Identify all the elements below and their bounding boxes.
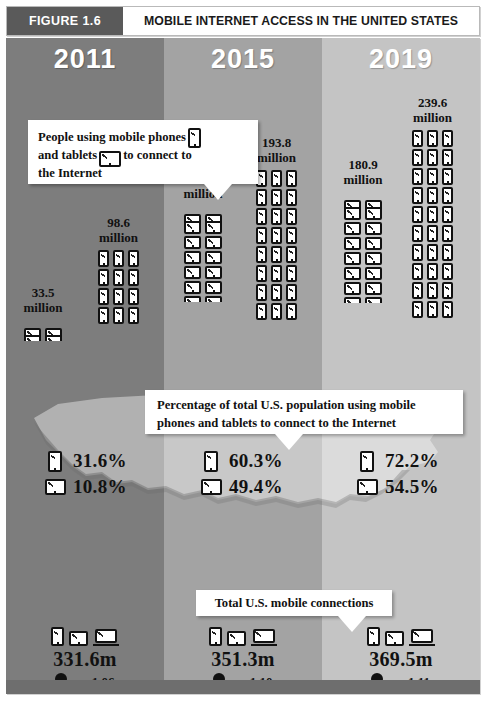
device-trio-2019 xyxy=(322,626,480,646)
phone-icon xyxy=(113,307,124,324)
figure-infographic: FIGURE 1.6 MOBILE INTERNET ACCESS IN THE… xyxy=(0,0,486,712)
phone-icon xyxy=(412,168,423,185)
callout-devices-intro: People using mobile phones and tabletsto… xyxy=(28,120,258,184)
figure-header: FIGURE 1.6 MOBILE INTERNET ACCESS IN THE… xyxy=(6,6,480,36)
callout-line-2: and tablets xyxy=(38,148,97,162)
phone-icon xyxy=(442,187,453,204)
phone-icon xyxy=(256,208,267,225)
phone-icon xyxy=(360,451,374,472)
figure-title: MOBILE INTERNET ACCESS IN THE UNITED STA… xyxy=(123,7,479,35)
tablet-icon xyxy=(365,252,382,265)
phone-icon xyxy=(128,250,139,267)
tablet-pictogram-2011 xyxy=(22,318,64,341)
tablet-icon xyxy=(365,222,382,235)
laptop-icon xyxy=(409,629,435,646)
phone-icon xyxy=(128,269,139,286)
tablet-icon xyxy=(205,296,222,302)
phone-icon xyxy=(204,451,218,472)
phone-percentage-2011: 31.6% xyxy=(73,450,127,472)
tablet-group-2019: 180.9million xyxy=(342,158,384,303)
phone-icon xyxy=(113,288,124,305)
phone-icon xyxy=(412,187,423,204)
phone-icon xyxy=(256,284,267,301)
phone-icon xyxy=(442,282,453,299)
phone-count-label-2015: 193.8million xyxy=(254,136,299,165)
tablet-icon xyxy=(205,251,222,264)
percentage-block-2019: 72.2% 54.5% xyxy=(354,448,439,500)
phone-percentage-row-2019: 72.2% xyxy=(354,448,439,474)
tablet-icon xyxy=(184,266,201,279)
phone-icon xyxy=(271,284,282,301)
phone-icon xyxy=(427,206,438,223)
callout-line-2b: to connect to xyxy=(123,148,192,162)
phone-icon xyxy=(128,307,139,324)
phone-icon xyxy=(271,208,282,225)
tablet-icon xyxy=(344,237,361,250)
laptop-icon xyxy=(93,629,119,646)
year-label-2015: 2015 xyxy=(164,44,322,75)
tablet-icon xyxy=(344,222,361,235)
phone-icon xyxy=(256,265,267,282)
phone-icon xyxy=(271,265,282,282)
phone-icon xyxy=(442,149,453,166)
tablet-icon xyxy=(365,282,382,295)
device-trio-2011 xyxy=(6,626,164,646)
phone-icon xyxy=(286,284,297,301)
phone-icon xyxy=(271,189,282,206)
phone-icon xyxy=(442,263,453,280)
phone-icon xyxy=(98,269,109,286)
phone-icon xyxy=(98,250,109,267)
phone-icon xyxy=(286,227,297,244)
phone-icon xyxy=(427,282,438,299)
tablet-icon xyxy=(201,479,222,495)
tablet-percentage-row-2015: 49.4% xyxy=(198,474,283,500)
total-connections-2011: 331.6m xyxy=(6,648,164,671)
phone-icon xyxy=(256,227,267,244)
figure-number-badge: FIGURE 1.6 xyxy=(7,7,123,35)
phone-icon xyxy=(286,265,297,282)
phone-icon xyxy=(412,263,423,280)
phone-icon xyxy=(209,627,222,646)
tablet-icon xyxy=(357,479,378,495)
phone-icon xyxy=(286,189,297,206)
phone-icon xyxy=(427,149,438,166)
phone-icon xyxy=(271,303,282,320)
phone-icon xyxy=(188,128,201,148)
phone-count-label-2019: 239.6million xyxy=(410,96,455,125)
tablet-icon xyxy=(99,151,121,167)
tablet-icon xyxy=(184,236,201,249)
phone-icon xyxy=(442,206,453,223)
tablet-pictogram-2015 xyxy=(182,204,224,302)
phone-icon xyxy=(128,288,139,305)
phone-count-label-2011: 98.6million xyxy=(96,216,141,245)
laptop-icon xyxy=(251,629,277,646)
tablet-icon xyxy=(69,631,88,646)
callout-total-connections: Total U.S. mobile connections xyxy=(196,590,392,616)
tablet-icon xyxy=(385,631,404,646)
phone-icon xyxy=(427,263,438,280)
phone-icon xyxy=(427,168,438,185)
phone-icon xyxy=(367,627,380,646)
phone-group-2015: 193.8million xyxy=(254,136,299,320)
tablet-icon xyxy=(344,282,361,295)
phone-icon xyxy=(256,189,267,206)
tablet-icon xyxy=(365,297,382,303)
phone-icon xyxy=(412,130,423,147)
tablet-count-label-2011: 33.5million xyxy=(22,286,64,315)
phone-icon xyxy=(271,170,282,187)
tablet-icon xyxy=(184,296,201,302)
phone-pictogram-2011 xyxy=(96,248,141,324)
phone-icon xyxy=(427,130,438,147)
phone-icon xyxy=(442,130,453,147)
tablet-icon xyxy=(205,236,222,249)
phone-icon xyxy=(286,303,297,320)
callout-line-3: the Internet xyxy=(38,166,102,180)
tablet-icon xyxy=(184,281,201,294)
callout-total-text: Total U.S. mobile connections xyxy=(215,596,374,610)
phone-icon xyxy=(286,170,297,187)
tablet-icon xyxy=(365,237,382,250)
phone-icon xyxy=(412,244,423,261)
phone-group-2019: 239.6million xyxy=(410,96,455,318)
phone-icon xyxy=(256,303,267,320)
tablet-icon xyxy=(344,207,361,220)
